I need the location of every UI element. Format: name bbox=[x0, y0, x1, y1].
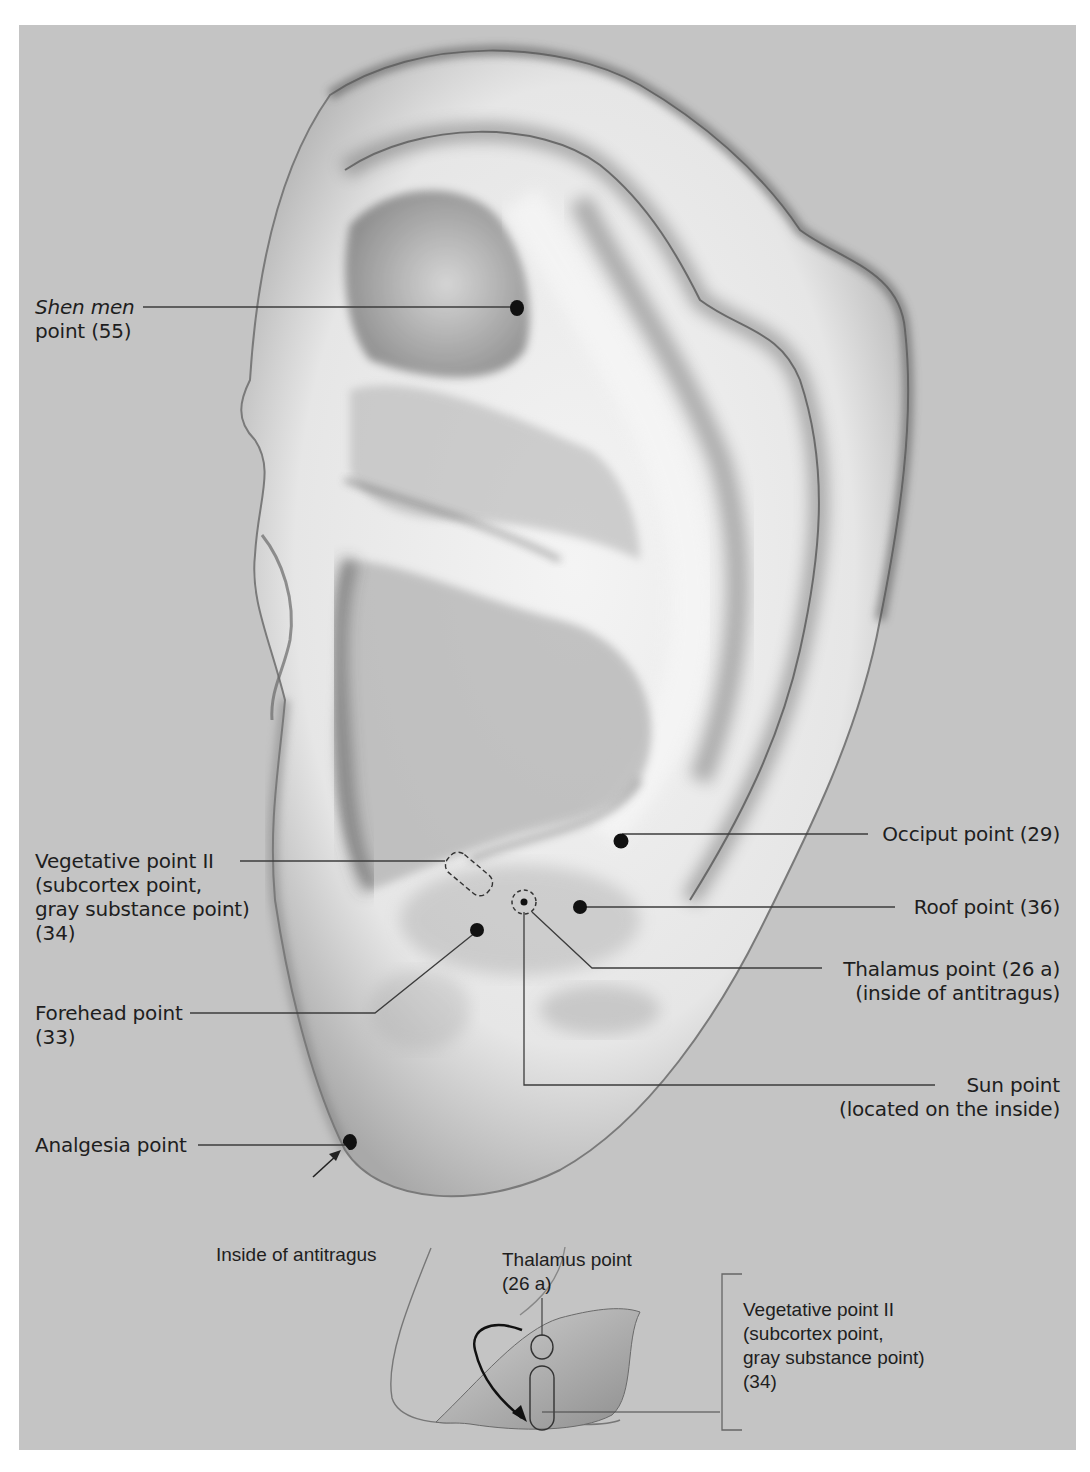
label-line: Analgesia point bbox=[35, 1133, 187, 1157]
label-sun: Sun point (located on the inside) bbox=[839, 1073, 1060, 1121]
label-line: (located on the inside) bbox=[839, 1097, 1060, 1121]
arrow-icon bbox=[329, 1150, 341, 1161]
label-line: Forehead point bbox=[35, 1001, 183, 1025]
inset-bracket bbox=[722, 1274, 742, 1430]
label-line: (inside of antitragus) bbox=[843, 981, 1060, 1005]
label-shen-men-number: point (55) bbox=[35, 319, 135, 343]
label-roof: Roof point (36) bbox=[914, 895, 1060, 919]
point-occiput bbox=[614, 834, 629, 849]
label-line: (subcortex point, bbox=[743, 1322, 925, 1346]
label-line: Thalamus point (26 a) bbox=[843, 957, 1060, 981]
point-shen-men bbox=[510, 300, 524, 316]
label-line: (34) bbox=[743, 1370, 925, 1394]
label-line: Occiput point (29) bbox=[882, 822, 1060, 846]
inset-title: Inside of antitragus bbox=[216, 1243, 377, 1267]
point-thalamus bbox=[521, 899, 528, 906]
label-line: (subcortex point, bbox=[35, 873, 250, 897]
label-thalamus: Thalamus point (26 a) (inside of antitra… bbox=[843, 957, 1060, 1005]
label-analgesia: Analgesia point bbox=[35, 1133, 187, 1157]
label-shen-men-name: Shen men bbox=[35, 295, 135, 319]
label-occiput: Occiput point (29) bbox=[882, 822, 1060, 846]
point-roof bbox=[573, 900, 587, 914]
point-forehead bbox=[470, 923, 484, 937]
label-line: Vegetative point II bbox=[35, 849, 250, 873]
label-line: (26 a) bbox=[502, 1272, 632, 1296]
label-line: gray substance point) bbox=[35, 897, 250, 921]
label-line: (34) bbox=[35, 921, 250, 945]
inset-label-thalamus: Thalamus point (26 a) bbox=[502, 1248, 632, 1296]
label-line: gray substance point) bbox=[743, 1346, 925, 1370]
inset-label-vegetative: Vegetative point II (subcortex point, gr… bbox=[743, 1298, 925, 1394]
label-line: Sun point bbox=[839, 1073, 1060, 1097]
label-forehead: Forehead point (33) bbox=[35, 1001, 183, 1049]
label-line: Vegetative point II bbox=[743, 1298, 925, 1322]
label-line: Thalamus point bbox=[502, 1248, 632, 1272]
label-vegetative-ii: Vegetative point II (subcortex point, gr… bbox=[35, 849, 250, 945]
label-line: (33) bbox=[35, 1025, 183, 1049]
label-line: Roof point (36) bbox=[914, 895, 1060, 919]
label-shen-men: Shen men point (55) bbox=[35, 295, 135, 343]
